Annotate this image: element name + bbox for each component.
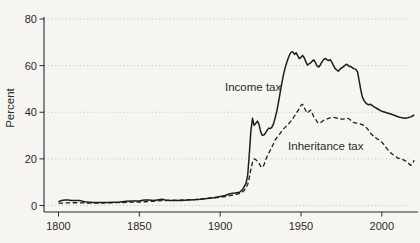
tax-rates-figure: 02040608018001850190019502000PercentInco… [0, 0, 420, 243]
income-tax-line [59, 52, 415, 203]
y-tick-label-0: 0 [31, 200, 37, 212]
x-tick-label-2000: 2000 [370, 220, 394, 232]
inheritance-tax-label: Inheritance tax [288, 140, 364, 152]
y-tick-label-40: 40 [25, 106, 37, 118]
y-axis-title: Percent [4, 87, 16, 127]
x-tick-label-1950: 1950 [289, 220, 313, 232]
x-tick-label-1800: 1800 [46, 220, 70, 232]
y-tick-label-20: 20 [25, 153, 37, 165]
inheritance-tax-line [59, 104, 415, 203]
x-tick-label-1850: 1850 [127, 220, 151, 232]
income-tax-label: Income tax [225, 81, 281, 93]
x-tick-label-1900: 1900 [208, 220, 232, 232]
tax-rates-chart: 02040608018001850190019502000PercentInco… [0, 0, 420, 243]
y-tick-label-60: 60 [25, 60, 37, 72]
y-tick-label-80: 80 [25, 13, 37, 25]
